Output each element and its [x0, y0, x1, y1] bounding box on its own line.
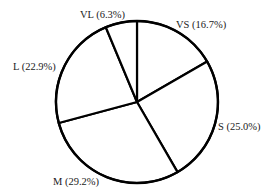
slice-label-l: L (22.9%) — [13, 61, 56, 73]
pie-chart: VS (16.7%) S (25.0%) M (29.2%) L (22.9%)… — [0, 0, 268, 194]
slice-label-m: M (29.2%) — [53, 176, 100, 188]
slice-label-vl: VL (6.3%) — [80, 9, 126, 21]
slice-label-s: S (25.0%) — [218, 121, 261, 133]
slice-label-vs: VS (16.7%) — [176, 19, 227, 31]
